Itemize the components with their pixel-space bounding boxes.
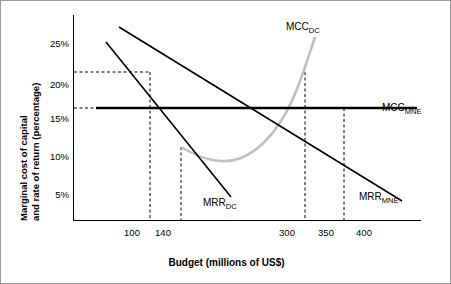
y-axis-title: Marginal cost of capital and rate of ret… <box>7 15 35 221</box>
x-axis-title: Budget (millions of US$) <box>1 257 451 268</box>
y-tick-25: 25% <box>35 38 69 49</box>
series-mrr-dc-line <box>106 42 231 197</box>
series-label-mcc-dc: MCCDC <box>286 21 320 35</box>
x-tick-400: 400 <box>344 227 384 238</box>
chart-figure: Marginal cost of capital and rate of ret… <box>0 0 451 284</box>
series-label-mrr-mne: MRRMNE <box>359 191 398 205</box>
y-tick-15: 15% <box>35 113 69 124</box>
y-tick-5: 5% <box>35 189 69 200</box>
series-mcc-dc-curve <box>181 37 315 161</box>
x-tick-350: 350 <box>306 227 346 238</box>
x-tick-300: 300 <box>267 227 307 238</box>
y-tick-10: 10% <box>35 151 69 162</box>
x-tick-140: 140 <box>143 227 183 238</box>
series-label-mrr-dc: MRRDC <box>203 197 237 211</box>
y-tick-20: 20% <box>35 79 69 90</box>
series-mrr-mne-line <box>119 27 402 201</box>
series-label-mcc-mne: MCCMNE <box>382 102 421 116</box>
y-axis-title-line1: Marginal cost of capital <box>18 115 29 221</box>
